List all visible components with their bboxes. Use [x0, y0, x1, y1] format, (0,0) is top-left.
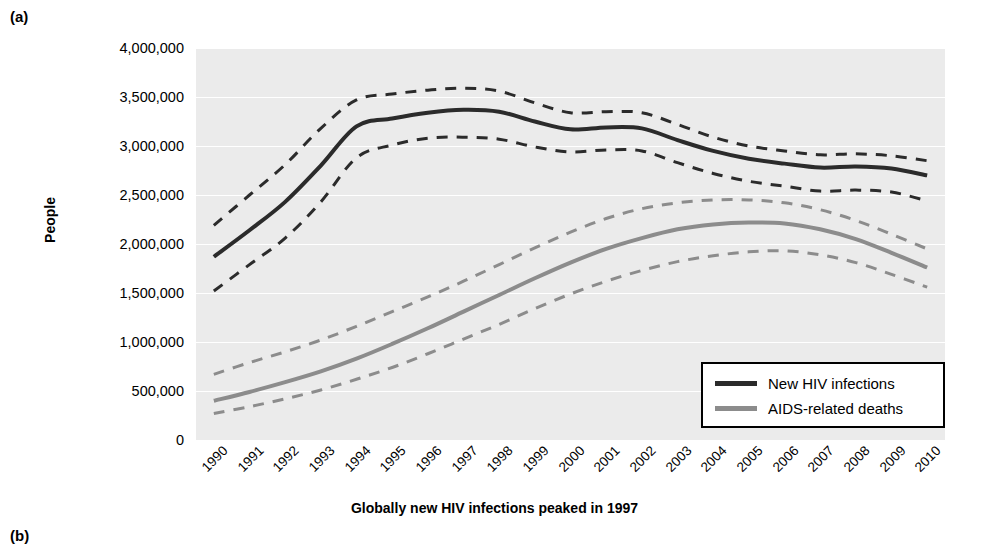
- panel-b-label: (b): [10, 527, 29, 544]
- x-tick-label: 2000: [548, 443, 587, 482]
- y-tick-label: 500,000: [54, 384, 184, 398]
- y-tick-label: 1,000,000: [54, 335, 184, 349]
- y-axis-tick-labels: 4,000,0003,500,0003,000,0002,500,0002,00…: [52, 0, 184, 558]
- x-tick-label: 2003: [655, 443, 694, 482]
- y-tick-label: 2,500,000: [54, 188, 184, 202]
- y-tick-label: 4,000,000: [54, 41, 184, 55]
- y-tick-label: 3,500,000: [54, 90, 184, 104]
- x-tick-label: 2010: [905, 443, 944, 482]
- x-tick-label: 2009: [869, 443, 908, 482]
- x-tick-label: 2001: [584, 443, 623, 482]
- x-tick-label: 2008: [834, 443, 873, 482]
- legend-label: New HIV infections: [768, 375, 895, 392]
- chart-caption: Globally new HIV infections peaked in 19…: [0, 500, 989, 516]
- x-tick-label: 1997: [441, 443, 480, 482]
- x-tick-label: 1999: [513, 443, 552, 482]
- x-tick-label: 1995: [370, 443, 409, 482]
- series-line: [214, 88, 927, 225]
- y-tick-label: 2,000,000: [54, 237, 184, 251]
- line-swatch-gray: [715, 406, 757, 411]
- x-tick-label: 2002: [620, 443, 659, 482]
- legend-item: AIDS-related deaths: [715, 396, 943, 421]
- x-tick-label: 1994: [334, 443, 373, 482]
- y-tick-label: 3,000,000: [54, 139, 184, 153]
- x-tick-label: 1998: [477, 443, 516, 482]
- x-tick-label: 1991: [227, 443, 266, 482]
- series-line: [214, 110, 927, 257]
- y-tick-label: 1,500,000: [54, 286, 184, 300]
- chart-figure: (a) (b) People 4,000,0003,500,0003,000,0…: [0, 0, 989, 558]
- x-tick-label: 2004: [691, 443, 730, 482]
- chart-legend: New HIV infectionsAIDS-related deaths: [701, 362, 945, 428]
- y-tick-label: 0: [54, 433, 184, 447]
- panel-a-label: (a): [10, 8, 28, 25]
- x-tick-label: 1990: [192, 443, 231, 482]
- x-tick-label: 2007: [798, 443, 837, 482]
- series-line: [214, 137, 927, 291]
- x-tick-label: 1993: [299, 443, 338, 482]
- legend-item: New HIV infections: [715, 371, 943, 396]
- series-line: [214, 200, 927, 375]
- line-swatch-dark: [715, 381, 757, 386]
- x-tick-label: 2005: [727, 443, 766, 482]
- x-tick-label: 1992: [263, 443, 302, 482]
- legend-label: AIDS-related deaths: [768, 400, 903, 417]
- x-tick-label: 2006: [762, 443, 801, 482]
- x-tick-label: 1996: [406, 443, 445, 482]
